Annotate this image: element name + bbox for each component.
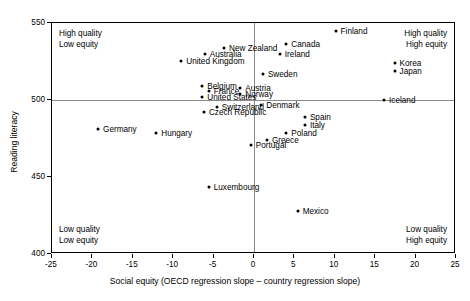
data-point <box>201 84 204 87</box>
y-axis-title: Reading literacy <box>9 97 19 187</box>
data-point-label: Mexico <box>303 206 329 215</box>
data-point <box>393 62 396 65</box>
x-axis-tick-label: 0 <box>251 260 256 269</box>
annotation-bottom-right: Low quality High equity <box>406 225 447 246</box>
annotation-bottom-right-line1: Low quality <box>406 225 447 236</box>
x-axis-tick-label: -15 <box>126 260 138 269</box>
annotation-top-left-line2: Low equity <box>59 40 102 51</box>
y-axis-tick-label: 400 <box>31 249 45 258</box>
y-axis-tick-label: 550 <box>31 18 45 27</box>
annotation-top-left-line1: High quality <box>59 29 102 40</box>
annotation-bottom-left-line1: Low quality <box>59 225 100 236</box>
x-axis-tick-label: 5 <box>291 260 296 269</box>
data-point <box>334 30 337 33</box>
data-point <box>207 185 210 188</box>
data-point-label: Luxembourg <box>214 182 260 191</box>
x-axis-tick <box>213 254 214 258</box>
y-axis-tick-label: 500 <box>31 95 45 104</box>
x-axis-tick-label: 15 <box>370 260 379 269</box>
data-point <box>202 111 205 114</box>
annotation-top-left: High quality Low equity <box>59 29 102 50</box>
data-point <box>285 131 288 134</box>
data-point <box>97 127 100 130</box>
annotation-top-right: High quality High equity <box>404 29 447 50</box>
data-point <box>203 52 206 55</box>
x-axis-tick-label: 20 <box>410 260 419 269</box>
annotation-bottom-right-line2: High equity <box>406 236 447 247</box>
data-point-label: Portugal <box>256 140 287 149</box>
x-axis-tick-label: 25 <box>450 260 459 269</box>
y-axis-tick <box>47 253 51 254</box>
data-point <box>278 52 281 55</box>
data-point-label: Ireland <box>285 49 310 58</box>
data-point <box>249 143 252 146</box>
x-axis-title: Social equity (OECD regression slope – c… <box>0 276 470 286</box>
x-axis-tick <box>293 254 294 258</box>
annotation-top-right-line1: High quality <box>404 29 447 40</box>
x-axis-tick <box>51 254 52 258</box>
x-axis-tick <box>374 254 375 258</box>
x-axis-tick <box>253 254 254 258</box>
x-axis-tick-label: -20 <box>85 260 97 269</box>
data-point-label: United States <box>207 93 256 102</box>
y-axis-tick <box>47 99 51 100</box>
data-point <box>285 42 288 45</box>
data-point <box>155 131 158 134</box>
x-axis-tick <box>455 254 456 258</box>
annotation-bottom-left-line2: Low equity <box>59 236 100 247</box>
y-axis-tick <box>47 22 51 23</box>
data-point <box>180 60 183 63</box>
annotation-top-right-line2: High equity <box>404 40 447 51</box>
x-axis-tick <box>334 254 335 258</box>
x-axis-tick <box>132 254 133 258</box>
data-point-label: Sweden <box>268 69 298 78</box>
data-point-label: Denmark <box>266 100 299 109</box>
data-point <box>393 70 396 73</box>
data-point-label: Czech Republic <box>209 108 266 117</box>
annotation-bottom-left: Low quality Low equity <box>59 225 100 246</box>
data-point-label: Germany <box>103 124 137 133</box>
chart-container: Reading literacy High quality Low equity… <box>0 0 470 301</box>
data-point-label: Iceland <box>389 96 415 105</box>
data-point-label: Japan <box>400 67 422 76</box>
x-axis-tick <box>415 254 416 258</box>
y-axis-tick <box>47 176 51 177</box>
x-axis-tick-label: -10 <box>166 260 178 269</box>
data-point-label: Canada <box>291 39 320 48</box>
x-axis-tick-label: 10 <box>329 260 338 269</box>
x-axis-tick <box>91 254 92 258</box>
data-point <box>303 123 306 126</box>
vertical-reference-line <box>254 23 255 252</box>
data-point <box>383 99 386 102</box>
data-point <box>303 115 306 118</box>
y-axis-tick-label: 450 <box>31 172 45 181</box>
x-axis-tick-label: -25 <box>45 260 57 269</box>
data-point <box>201 96 204 99</box>
data-point-label: Finland <box>341 27 368 36</box>
data-point-label: Hungary <box>161 128 192 137</box>
data-point <box>261 72 264 75</box>
data-point <box>296 209 299 212</box>
x-axis-tick <box>172 254 173 258</box>
x-axis-tick-label: -5 <box>209 260 216 269</box>
data-point-label: United Kingdom <box>186 57 244 66</box>
plot-area: High quality Low equity High quality Hig… <box>51 22 455 253</box>
